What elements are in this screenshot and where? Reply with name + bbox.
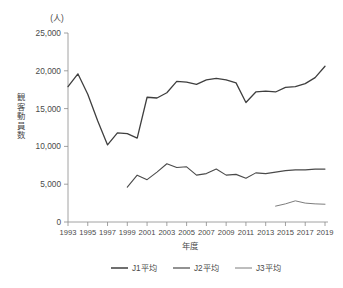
y-tick-label: 10,000: [36, 141, 62, 151]
x-axis-ticks: 1993199519971999200120032005200720092011…: [60, 222, 334, 237]
y-tick-label: 15,000: [36, 104, 62, 114]
y-axis-title-char: 員: [17, 121, 26, 131]
series-lines: [68, 66, 325, 206]
y-axis-title: 観客動員数: [17, 92, 26, 140]
y-axis: 05,00010,00015,00020,00025,000: [36, 28, 68, 227]
y-axis-title-char: 数: [17, 130, 26, 140]
legend-label: J2平均: [194, 263, 219, 273]
y-tick-label: 25,000: [36, 28, 62, 38]
y-axis-title-char: 動: [17, 111, 25, 121]
legend-label: J3平均: [256, 263, 281, 273]
chart-legend: J1平均J2平均J3平均: [111, 263, 281, 273]
x-tick-label: 1995: [79, 228, 96, 237]
x-tick-label: 2007: [198, 228, 215, 237]
series-line-J1平均: [68, 66, 325, 145]
x-tick-label: 2005: [178, 228, 195, 237]
x-tick-label: 2003: [158, 228, 175, 237]
x-tick-label: 1993: [60, 228, 77, 237]
line-chart-figure: (人) 観客動員数 05,00010,00015,00020,00025,000…: [0, 0, 343, 288]
x-tick-label: 1999: [119, 228, 136, 237]
x-tick-label: 2013: [257, 228, 274, 237]
y-axis-ticks: 05,00010,00015,00020,00025,000: [36, 28, 68, 227]
x-tick-label: 2019: [317, 228, 334, 237]
x-tick-label: 2017: [297, 228, 314, 237]
legend-label: J1平均: [132, 263, 157, 273]
x-tick-label: 2001: [139, 228, 156, 237]
series-line-J3平均: [276, 201, 325, 206]
x-tick-label: 2015: [277, 228, 294, 237]
x-tick-label: 2011: [238, 228, 254, 237]
x-tick-label: 2009: [218, 228, 235, 237]
y-tick-label: 5,000: [40, 179, 61, 189]
y-axis-title-char: 観: [17, 92, 26, 102]
x-tick-label: 1997: [99, 228, 116, 237]
x-axis: 1993199519971999200120032005200720092011…: [60, 222, 334, 237]
y-axis-unit-label: (人): [50, 14, 64, 23]
chart-container: (人) 観客動員数 05,00010,00015,00020,00025,000…: [0, 0, 343, 288]
y-tick-label: 0: [56, 217, 61, 227]
series-line-J2平均: [127, 164, 325, 187]
y-tick-label: 20,000: [36, 66, 62, 76]
y-axis-title-char: 客: [17, 102, 26, 112]
x-axis-title: 年度: [182, 241, 199, 251]
